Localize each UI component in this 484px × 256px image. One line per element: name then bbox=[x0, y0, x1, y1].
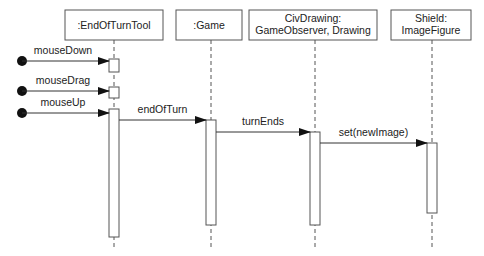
lifeline-header-label: Shield: bbox=[415, 12, 447, 24]
messages: mouseDownmouseDragmouseUpendOfTurnturnEn… bbox=[17, 44, 427, 143]
lifeline-header-label: CivDrawing: bbox=[285, 12, 342, 24]
lifeline-header-label: :Game bbox=[193, 19, 225, 31]
activation-bar bbox=[310, 132, 320, 225]
activation-bar bbox=[109, 87, 119, 98]
sequence-diagram: :EndOfTurnTool:GameCivDrawing:GameObserv… bbox=[0, 0, 484, 256]
activation-bar bbox=[206, 120, 216, 225]
lifeline-header-label: GameObserver, Drawing bbox=[255, 24, 371, 36]
message-label: mouseDown bbox=[34, 44, 93, 56]
message-turnEnds: turnEnds bbox=[216, 115, 310, 132]
found-message-mouseDrag: mouseDrag bbox=[17, 74, 109, 96]
activation-bar bbox=[109, 109, 119, 237]
message-label: set(newImage) bbox=[339, 126, 408, 138]
message-label: mouseDrag bbox=[36, 74, 90, 86]
lifeline-header-label: ImageFigure bbox=[402, 24, 461, 36]
activation-bar bbox=[427, 143, 437, 213]
message-setnewImage: set(newImage) bbox=[320, 126, 427, 143]
activations bbox=[109, 59, 437, 237]
found-message-mouseDown: mouseDown bbox=[17, 44, 109, 66]
found-message-mouseUp: mouseUp bbox=[17, 96, 109, 118]
message-label: turnEnds bbox=[242, 115, 284, 127]
lifelines: :EndOfTurnTool:GameCivDrawing:GameObserv… bbox=[65, 10, 471, 248]
lifeline-header-label: :EndOfTurnTool bbox=[77, 19, 150, 31]
message-label: mouseUp bbox=[41, 96, 86, 108]
message-label: endOfTurn bbox=[138, 103, 188, 115]
message-endOfTurn: endOfTurn bbox=[119, 103, 206, 120]
activation-bar bbox=[109, 59, 119, 72]
